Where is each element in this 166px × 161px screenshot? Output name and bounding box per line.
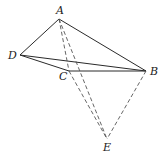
- segment-db: [20, 55, 146, 71]
- label-c: C: [59, 70, 68, 83]
- segment-be: [107, 71, 146, 139]
- segment-dc: [20, 55, 69, 71]
- segment-ab: [59, 19, 146, 71]
- vertex-labels: A B C D E: [7, 4, 158, 154]
- label-a: A: [55, 4, 64, 17]
- geometry-diagram: A B C D E: [0, 0, 166, 161]
- segment-ad: [20, 19, 59, 55]
- solid-edges: [20, 19, 146, 71]
- label-b: B: [149, 65, 158, 78]
- dashed-edges: [59, 19, 146, 139]
- label-e: E: [102, 141, 111, 154]
- segment-ce: [69, 71, 107, 139]
- label-d: D: [7, 49, 17, 62]
- diagram-svg: A B C D E: [0, 0, 166, 161]
- segment-ac: [59, 19, 69, 71]
